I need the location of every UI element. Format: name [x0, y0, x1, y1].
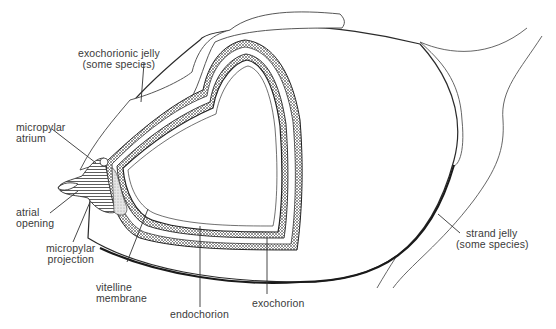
label-endochorion: endochorion — [170, 309, 229, 320]
label-strand-jelly: strand jelly (some species) — [456, 228, 529, 250]
label-micropylar-atrium: micropylar atrium — [16, 122, 65, 144]
egg-diagram: exochorionic jelly (some species) microp… — [0, 0, 556, 329]
leader-micropylar-projection — [73, 202, 90, 242]
label-exochorionic-jelly: exochorionic jelly (some species) — [78, 48, 160, 70]
label-exochorion: exochorion — [252, 298, 304, 309]
label-vitelline-membrane: vitelline membrane — [96, 282, 147, 304]
label-micropylar-projection: micropylar projection — [46, 243, 95, 265]
leader-atrial-opening — [50, 191, 78, 213]
label-atrial-opening: atrial opening — [16, 207, 54, 229]
